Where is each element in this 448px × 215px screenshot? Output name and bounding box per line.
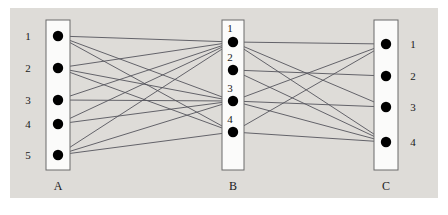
node-a1[interactable] bbox=[53, 31, 63, 41]
node-label-a4: 4 bbox=[25, 118, 31, 130]
column-label-b: B bbox=[229, 179, 237, 193]
node-label-c2: 2 bbox=[410, 70, 416, 82]
node-label-a3: 3 bbox=[25, 94, 31, 106]
node-label-a2: 2 bbox=[25, 62, 31, 74]
node-a4[interactable] bbox=[53, 119, 63, 129]
node-a5[interactable] bbox=[53, 150, 63, 160]
node-c4[interactable] bbox=[381, 137, 391, 147]
node-label-a1: 1 bbox=[25, 30, 31, 42]
node-label-c4: 4 bbox=[410, 136, 416, 148]
node-c1[interactable] bbox=[381, 39, 391, 49]
node-label-b2: 2 bbox=[227, 51, 233, 63]
node-label-b4: 4 bbox=[227, 113, 233, 125]
column-label-c: C bbox=[382, 179, 390, 193]
node-a2[interactable] bbox=[53, 63, 63, 73]
column-label-a: A bbox=[54, 179, 63, 193]
node-c2[interactable] bbox=[381, 71, 391, 81]
node-b1[interactable] bbox=[228, 37, 238, 47]
node-b3[interactable] bbox=[228, 96, 238, 106]
node-label-c3: 3 bbox=[410, 101, 416, 113]
node-a3[interactable] bbox=[53, 95, 63, 105]
node-label-b3: 3 bbox=[227, 82, 233, 94]
node-b2[interactable] bbox=[228, 65, 238, 75]
node-label-c1: 1 bbox=[410, 38, 416, 50]
diagram-root: 12345A1234B1234C bbox=[0, 0, 448, 215]
node-label-b1: 1 bbox=[227, 22, 233, 34]
node-c3[interactable] bbox=[381, 102, 391, 112]
node-b4[interactable] bbox=[228, 127, 238, 137]
tripartite-graph-svg: 12345A1234B1234C bbox=[0, 0, 448, 215]
node-label-a5: 5 bbox=[25, 149, 31, 161]
